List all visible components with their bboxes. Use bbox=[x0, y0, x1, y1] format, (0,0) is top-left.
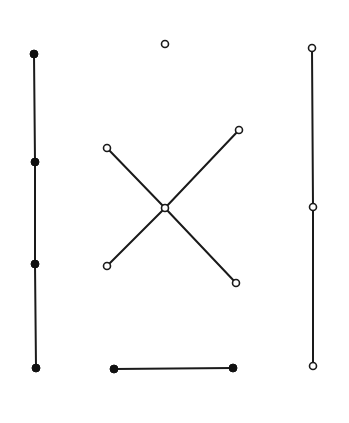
right-path-edge-R1-R2 bbox=[312, 48, 313, 207]
right-path-vertex-R2 bbox=[310, 204, 317, 211]
isolated-vertex-vertex-I1 bbox=[162, 41, 169, 48]
star-edge-C-S2 bbox=[165, 130, 239, 208]
left-path-vertex-L1 bbox=[30, 50, 38, 58]
star-vertex-S4 bbox=[233, 280, 240, 287]
star-vertex-S3 bbox=[104, 263, 111, 270]
left-path-edge-L3-L4 bbox=[35, 264, 36, 368]
left-path-edge-L1-L2 bbox=[34, 54, 35, 162]
star-vertex-C bbox=[162, 205, 169, 212]
nodes-layer bbox=[30, 41, 317, 374]
star-edge-C-S3 bbox=[107, 208, 165, 266]
left-path-vertex-L3 bbox=[31, 260, 39, 268]
bottom-edge-edge-B1-B2 bbox=[114, 368, 233, 369]
left-path-vertex-L4 bbox=[32, 364, 40, 372]
right-path-vertex-R1 bbox=[309, 45, 316, 52]
star-vertex-S2 bbox=[236, 127, 243, 134]
star-vertex-S1 bbox=[104, 145, 111, 152]
edges-layer bbox=[34, 48, 313, 369]
bottom-edge-vertex-B2 bbox=[229, 364, 237, 372]
bottom-edge-vertex-B1 bbox=[110, 365, 118, 373]
star-edge-C-S4 bbox=[165, 208, 236, 283]
right-path-vertex-R3 bbox=[310, 363, 317, 370]
graph-diagram bbox=[0, 0, 349, 423]
left-path-vertex-L2 bbox=[31, 158, 39, 166]
star-edge-C-S1 bbox=[107, 148, 165, 208]
